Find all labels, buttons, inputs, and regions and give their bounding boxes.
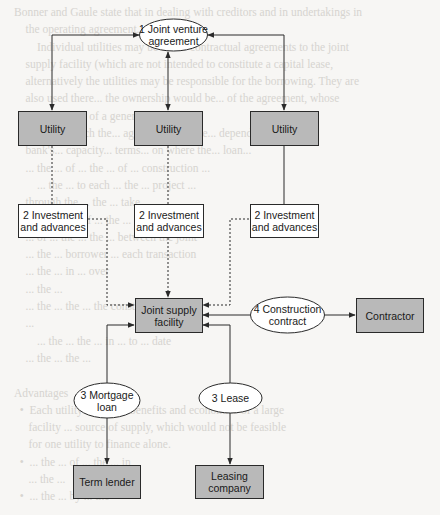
investment-3-label: 2 Investment and advances [250, 204, 319, 238]
mortgage-loan-label: 3 Mortgage loan [74, 383, 140, 418]
investment-1-label: 2 Investment and advances [18, 204, 88, 238]
leasing-company-label: Leasing company [195, 465, 264, 499]
utility-1-label: Utility [18, 111, 87, 146]
joint-supply-label: Joint supply facility [135, 298, 203, 333]
edge-investment-1-joint-supply [88, 219, 134, 305]
construction-contract-label: 4 Construction contract [250, 297, 325, 333]
investment-2-label: 2 Investment and advances [134, 204, 204, 238]
contractor-label: Contractor [356, 298, 424, 333]
joint-venture-financing-diagram [0, 0, 440, 515]
utility-3-label: Utility [250, 111, 319, 146]
utility-2-label: Utility [134, 111, 203, 146]
edge-jv-utility-1 [52, 35, 139, 110]
edge-jv-utility-3 [208, 35, 284, 110]
lease-label: 3 Lease [199, 383, 262, 413]
jv-agreement-label: 1 Joint venture agreement [139, 19, 208, 51]
node-shapes [19, 19, 424, 499]
edge-mortgage-joint-supply [107, 325, 134, 383]
term-lender-label: Term lender [73, 465, 141, 499]
edge-investment-3-joint-supply [203, 219, 249, 305]
edge-lease-joint-supply [203, 325, 230, 383]
